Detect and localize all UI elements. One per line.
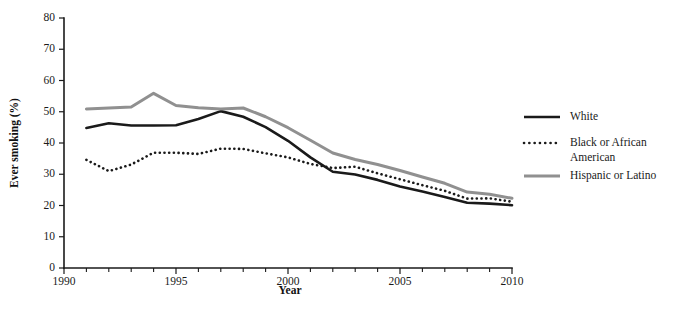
chart-legend: WhiteBlack or AfricanAmericanHispanic or… [524, 110, 656, 182]
line-chart: 01020304050607080 19901995200020052010 W… [0, 0, 684, 313]
y-axis-tick-label: 30 [44, 167, 56, 179]
y-axis-tick-label: 80 [44, 11, 56, 23]
legend-label-0: White [570, 110, 598, 122]
y-axis-title: Ever smoking (%) [8, 98, 21, 188]
y-axis-tick-label: 60 [44, 74, 56, 86]
x-axis-tick-label: 2005 [389, 275, 412, 287]
y-axis-tick-label: 20 [44, 199, 56, 211]
legend-label-2: Hispanic or Latino [570, 169, 656, 182]
legend-label-1: Black or African [570, 136, 647, 148]
y-axis-tick-label: 40 [44, 136, 56, 148]
series-line-1 [86, 149, 512, 202]
x-axis-tick-label: 1995 [165, 275, 188, 287]
series-line-0 [86, 111, 512, 205]
chart-figure: 01020304050607080 19901995200020052010 W… [0, 0, 684, 313]
y-axis-tick-label: 0 [49, 261, 55, 273]
x-axis-tick-label: 1990 [53, 275, 76, 287]
y-axis-tick-label: 10 [44, 230, 56, 242]
y-axis-tick-label: 70 [44, 42, 56, 54]
x-axis-tick-label: 2010 [501, 275, 524, 287]
x-axis-title: Year [279, 284, 302, 296]
y-axis: 01020304050607080 [44, 11, 65, 273]
series-line-2 [86, 93, 512, 198]
y-axis-tick-label: 50 [44, 105, 56, 117]
data-series-group [86, 93, 512, 205]
legend-label-1-line2: American [570, 151, 616, 163]
